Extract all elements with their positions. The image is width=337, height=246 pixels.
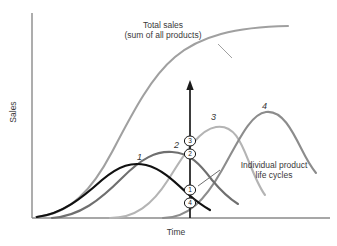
curve-label-3: 3: [211, 112, 216, 122]
total-sales-line-2: (sum of all products): [104, 30, 222, 40]
snapshot-time-arrow-head: [186, 80, 193, 90]
curve-product-2: [52, 152, 238, 218]
x-axis-label: Time: [140, 227, 212, 237]
y-axis-label: Sales: [8, 88, 18, 136]
product-life-cycle-chart: 3 2 1 4 1 2 3 4 Total sales (sum of all …: [0, 0, 337, 246]
marker-label-4: 4: [185, 199, 196, 207]
individual-line-2: life cycles: [222, 170, 326, 180]
total-sales-label-leader: [218, 44, 232, 58]
total-sales-annotation: Total sales (sum of all products): [104, 20, 222, 40]
individual-cycles-annotation: Individual product life cycles: [222, 160, 326, 180]
total-sales-line-1: Total sales: [104, 20, 222, 30]
curve-label-4: 4: [262, 101, 267, 111]
curve-label-1: 1: [137, 152, 142, 162]
marker-label-2: 2: [185, 150, 196, 158]
marker-label-3: 3: [185, 137, 196, 145]
individual-line-1: Individual product: [222, 160, 326, 170]
curve-label-2: 2: [174, 140, 179, 150]
marker-label-1: 1: [185, 186, 196, 194]
